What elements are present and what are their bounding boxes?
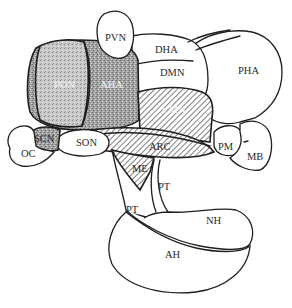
label-pon: PON bbox=[54, 79, 75, 90]
stalk-right-a bbox=[151, 160, 156, 212]
label-me: ME bbox=[132, 163, 148, 174]
label-oc: OC bbox=[21, 148, 36, 159]
label-vmn: VMN bbox=[161, 104, 186, 115]
label-pt-lower: PT bbox=[126, 204, 139, 215]
label-arc: ARC bbox=[149, 141, 171, 152]
label-ah: AH bbox=[165, 249, 181, 260]
label-mb: MB bbox=[247, 151, 263, 162]
label-pm: PM bbox=[218, 141, 234, 152]
label-son: SON bbox=[76, 137, 97, 148]
hypothalamus-diagram: PVN DHA DMN PHA PON AHA VMN SCN SON ARC … bbox=[0, 0, 292, 308]
label-pvn: PVN bbox=[105, 32, 126, 43]
label-pt-upper: PT bbox=[158, 181, 171, 192]
label-nh: NH bbox=[206, 215, 222, 226]
label-aha: AHA bbox=[100, 79, 123, 90]
label-scn: SCN bbox=[34, 133, 55, 144]
label-dmn: DMN bbox=[160, 67, 185, 78]
label-pha: PHA bbox=[238, 65, 259, 76]
label-dha: DHA bbox=[155, 44, 178, 55]
